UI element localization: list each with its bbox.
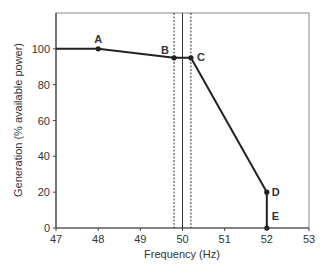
x-tick-label: 53	[303, 233, 315, 245]
point-marker-b	[171, 55, 176, 60]
point-label-e: E	[272, 210, 279, 222]
data-points: ABCDE	[94, 33, 280, 231]
y-axis-ticks: 020406080100	[32, 43, 56, 234]
x-tick-label: 48	[92, 233, 104, 245]
point-label-d: D	[272, 186, 280, 198]
x-tick-label: 52	[261, 233, 273, 245]
reference-lines	[174, 13, 191, 228]
y-tick-label: 0	[44, 222, 50, 234]
point-marker-c	[188, 55, 193, 60]
x-tick-label: 51	[219, 233, 231, 245]
point-marker-d	[264, 190, 269, 195]
y-tick-label: 80	[38, 79, 50, 91]
point-label-b: B	[161, 44, 169, 56]
point-label-c: C	[197, 51, 205, 63]
x-axis-label: Frequency (Hz)	[144, 248, 220, 260]
y-tick-label: 100	[32, 43, 50, 55]
data-series	[56, 49, 267, 228]
series-line	[56, 49, 267, 228]
y-tick-label: 60	[38, 115, 50, 127]
x-axis-ticks: 47484950515253	[50, 228, 315, 245]
x-tick-label: 47	[50, 233, 62, 245]
y-tick-label: 20	[38, 186, 50, 198]
point-label-a: A	[94, 33, 102, 45]
y-tick-label: 40	[38, 150, 50, 162]
point-marker-a	[96, 46, 101, 51]
x-tick-label: 50	[176, 233, 188, 245]
frequency-generation-chart: ABCDE 47484950515253 020406080100 Freque…	[0, 0, 335, 276]
x-tick-label: 49	[134, 233, 146, 245]
y-axis-label: Generation (% available power)	[12, 43, 24, 197]
